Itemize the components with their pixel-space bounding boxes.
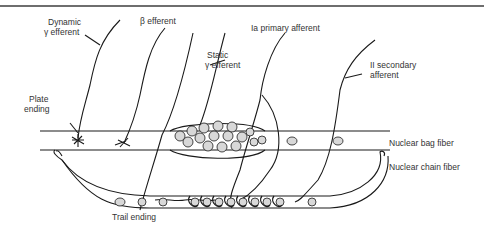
label-dynamic-gamma-line1: Dynamic	[48, 17, 81, 27]
label-ii-secondary-line1: II secondary	[370, 60, 416, 70]
label-nuclear-bag-fiber: Nuclear bag fiber	[389, 138, 454, 148]
label-static-gamma-line1: Static	[207, 50, 228, 60]
label-nuclear-chain-fiber: Nuclear chain fiber	[389, 162, 460, 172]
label-ia-primary-afferent: Ia primary afferent	[251, 23, 320, 33]
nuclear-bag-nuclei	[175, 121, 343, 152]
label-plate-ending-line1: Plate	[29, 94, 48, 104]
label-plate-ending-line2: ending	[24, 104, 50, 114]
label-beta-efferent: β efferent	[140, 16, 176, 26]
label-dynamic-gamma-line2: γ efferent	[44, 27, 79, 37]
chain-fiber-outline	[54, 150, 385, 196]
label-trail-ending: Trail ending	[112, 212, 156, 222]
label-static-gamma-line2: γ efferent	[205, 60, 240, 70]
label-ii-secondary-line2: afferent	[370, 70, 399, 80]
